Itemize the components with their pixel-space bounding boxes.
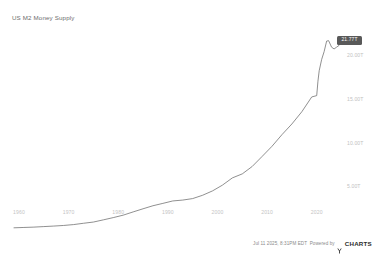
y-logo-icon bbox=[337, 241, 342, 247]
chart-footer: Jul 11 2025, 8:31PM EDT Powered by CHART… bbox=[253, 241, 372, 247]
x-axis: 1960197019801990200020102020 bbox=[14, 210, 344, 220]
plot-area bbox=[14, 28, 344, 206]
y-axis-tick-label: 5.00T bbox=[347, 184, 361, 189]
footer-powered-by-label: Powered by bbox=[310, 242, 335, 247]
x-axis-tick-label: 1970 bbox=[63, 210, 75, 215]
last-value-badge-label: 21.77T bbox=[341, 38, 357, 43]
line-chart-svg bbox=[14, 28, 344, 206]
footer-timestamp: Jul 11 2025, 8:31PM EDT bbox=[253, 242, 307, 247]
x-axis-tick-label: 2000 bbox=[212, 210, 224, 215]
y-axis-tick-label: 15.00T bbox=[347, 97, 363, 102]
ycharts-wordmark: CHARTS bbox=[345, 241, 372, 247]
y-axis-tick-label: 20.00T bbox=[347, 53, 363, 58]
x-axis-tick-label: 1980 bbox=[112, 210, 124, 215]
y-axis: 20.00T15.00T10.00T5.00T bbox=[345, 28, 382, 206]
y-axis-tick-label: 10.00T bbox=[347, 141, 363, 146]
x-axis-tick-label: 2010 bbox=[261, 210, 273, 215]
x-axis-tick-label: 1990 bbox=[162, 210, 174, 215]
x-axis-tick-label: 1960 bbox=[13, 210, 25, 215]
chart-card: US M2 Money Supply 20.00T15.00T10.00T5.0… bbox=[0, 0, 382, 255]
series-line-us-m2 bbox=[14, 40, 344, 227]
last-value-badge: 21.77T bbox=[337, 36, 362, 45]
x-axis-tick-label: 2020 bbox=[311, 210, 323, 215]
page-title: US M2 Money Supply bbox=[12, 15, 75, 21]
